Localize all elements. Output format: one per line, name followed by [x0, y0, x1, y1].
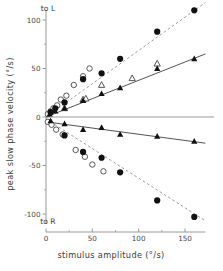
data-point-open-circle	[87, 66, 92, 71]
data-point-open-triangle	[154, 60, 160, 66]
x-axis-title: stimulus amplitude (°/s)	[57, 250, 164, 260]
data-point-filled-triangle	[99, 90, 105, 96]
data-point-filled-circle	[99, 70, 105, 76]
data-point-open-circle	[53, 127, 58, 132]
data-point-open-circle	[101, 169, 106, 174]
fit-triangles-to-R	[46, 122, 205, 143]
data-point-filled-circle	[117, 56, 123, 62]
data-point-open-circle	[71, 82, 76, 87]
fit-circles-to-R	[46, 119, 205, 221]
data-point-open-circle	[90, 162, 95, 167]
data-point-filled-circle	[117, 169, 123, 175]
data-point-filled-circle	[80, 149, 86, 155]
x-axis-tick-label: 0	[44, 234, 49, 243]
axis-direction-label-top: to L	[41, 4, 56, 13]
data-point-filled-circle	[61, 132, 67, 138]
data-point-filled-triangle	[117, 85, 123, 91]
fit-triangles-to-L	[46, 54, 205, 117]
x-axis-tick-label: 100	[132, 234, 146, 243]
y-axis-tick-label: 0	[36, 113, 41, 122]
data-point-filled-circle	[99, 155, 105, 161]
data-point-open-circle	[73, 147, 78, 152]
data-point-open-triangle	[129, 75, 135, 81]
x-axis-tick-label: 50	[88, 234, 98, 243]
data-point-filled-triangle	[99, 124, 105, 130]
y-axis-tick-label: -100	[24, 210, 41, 219]
y-axis-tick-label: -50	[29, 161, 41, 170]
chart-figure: -100-50050100050100150to Lto Rstimulus a…	[0, 0, 223, 271]
data-point-filled-circle	[80, 76, 86, 82]
y-axis-tick-label: 50	[31, 64, 41, 73]
data-point-filled-triangle	[191, 138, 197, 144]
y-axis-tick-label: 100	[27, 16, 41, 25]
x-axis-tick-label: 150	[178, 234, 192, 243]
y-axis-title: peak slow phase velocity (°/s)	[5, 57, 15, 190]
data-point-filled-circle	[154, 29, 160, 35]
scatter-plot-canvas: -100-50050100050100150to Lto Rstimulus a…	[0, 0, 223, 271]
data-point-filled-circle	[191, 7, 197, 13]
data-point-filled-triangle	[191, 56, 197, 62]
data-point-open-circle	[64, 93, 69, 98]
data-point-filled-triangle	[61, 105, 67, 111]
data-point-open-triangle	[99, 82, 105, 88]
data-point-filled-circle	[154, 197, 160, 203]
data-point-filled-circle	[191, 214, 197, 220]
data-point-filled-triangle	[61, 120, 67, 126]
axis-direction-label-bottom: to R	[40, 217, 56, 226]
fit-open-circles-to-L	[46, 3, 205, 117]
